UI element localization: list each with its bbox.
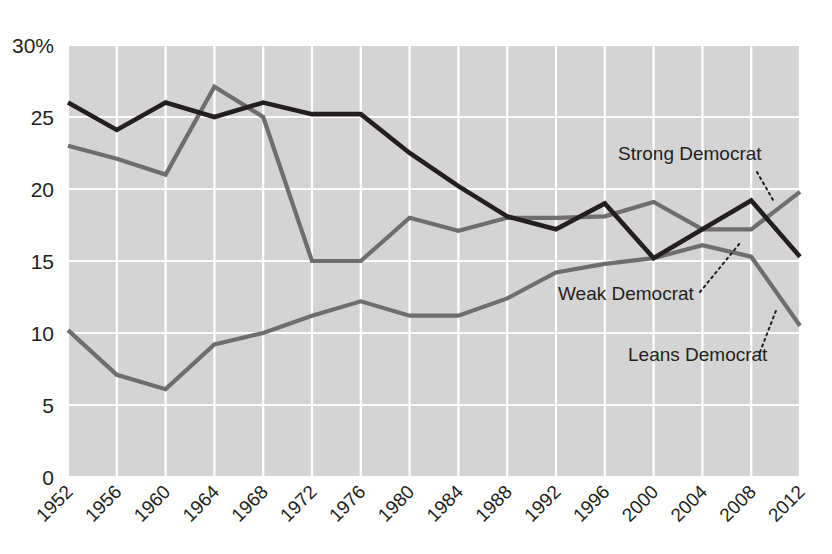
x-tick-1980: 1980: [374, 481, 419, 526]
x-tick-2012: 2012: [764, 481, 809, 526]
chart-container: 051015202530% 19521956196019641968197219…: [0, 0, 832, 554]
x-tick-1988: 1988: [471, 481, 516, 526]
x-tick-1984: 1984: [422, 481, 467, 526]
y-tick-label: 10: [31, 322, 54, 345]
y-tick-label: 30%: [12, 34, 54, 57]
y-tick-label: 15: [31, 250, 54, 273]
x-tick-label: 1988: [471, 481, 516, 526]
x-tick-1996: 1996: [569, 481, 614, 526]
x-tick-label: 1992: [520, 481, 565, 526]
y-tick-label: 0: [42, 466, 54, 489]
x-tick-2004: 2004: [666, 481, 711, 526]
x-tick-label: 1964: [178, 481, 223, 526]
x-tick-label: 1976: [325, 481, 370, 526]
annotation-label-leans-democrat: Leans Democrat: [628, 344, 768, 365]
y-tick-label: 20: [31, 178, 54, 201]
x-axis-tick-labels: 1952195619601964196819721976198019841988…: [32, 481, 809, 526]
x-tick-1952: 1952: [32, 481, 77, 526]
y-tick-label: 25: [31, 106, 54, 129]
x-tick-label: 1996: [569, 481, 614, 526]
x-tick-label: 1956: [81, 481, 126, 526]
annotation-label-strong-democrat: Strong Democrat: [618, 143, 762, 164]
x-tick-label: 1972: [276, 481, 321, 526]
line-chart: 051015202530% 19521956196019641968197219…: [0, 0, 832, 554]
y-tick-label: 5: [42, 394, 54, 417]
x-tick-1956: 1956: [81, 481, 126, 526]
x-tick-label: 1960: [130, 481, 175, 526]
y-axis-tick-labels: 051015202530%: [12, 34, 54, 489]
x-tick-label: 2008: [715, 481, 760, 526]
x-tick-label: 2000: [618, 481, 663, 526]
x-tick-label: 2004: [666, 481, 711, 526]
annotation-label-weak-democrat: Weak Democrat: [558, 283, 695, 304]
x-tick-label: 1952: [32, 481, 77, 526]
x-tick-1968: 1968: [227, 481, 272, 526]
x-tick-1960: 1960: [130, 481, 175, 526]
x-tick-label: 1968: [227, 481, 272, 526]
x-tick-label: 1980: [374, 481, 419, 526]
x-tick-2000: 2000: [618, 481, 663, 526]
x-tick-label: 1984: [422, 481, 467, 526]
x-tick-1976: 1976: [325, 481, 370, 526]
x-tick-1964: 1964: [178, 481, 223, 526]
x-tick-1992: 1992: [520, 481, 565, 526]
x-tick-1972: 1972: [276, 481, 321, 526]
x-tick-label: 2012: [764, 481, 809, 526]
x-tick-2008: 2008: [715, 481, 760, 526]
